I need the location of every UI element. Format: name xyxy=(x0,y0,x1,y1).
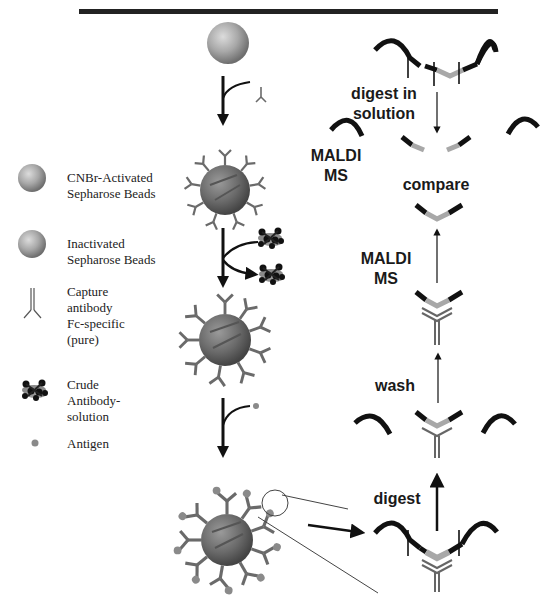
capture-antibody-reagent xyxy=(256,87,266,102)
activated-bead xyxy=(207,22,249,64)
flow-arrow-1 xyxy=(223,76,250,120)
crude-antibody-solution-icon xyxy=(22,380,48,402)
legend-label-inactivated-beads: Inactivated Sepharose Beads xyxy=(67,236,155,268)
flow-arrow-3 xyxy=(223,398,250,452)
label-compare: compare xyxy=(386,175,486,195)
label-maldi-ms-mid: MALDI MS xyxy=(356,249,416,289)
fragment-right xyxy=(508,119,538,134)
label-maldi-ms-top: MALDI MS xyxy=(306,146,366,186)
flow-arrow-2 xyxy=(223,228,258,282)
released-fragment-left xyxy=(355,416,390,434)
antibody-epitope-complex-wash xyxy=(416,412,462,458)
legend-label-antigen: Antigen xyxy=(67,436,109,452)
fragment-center-left xyxy=(402,137,424,150)
antigen-reagent xyxy=(253,403,259,409)
legend-label-capture-antibody: Capture antibody Fc-specific (pure) xyxy=(67,284,125,348)
zoom-callout xyxy=(258,490,378,593)
legend-label-crude-antibody-solution: Crude Antibody- solution xyxy=(67,377,120,425)
legend-label-cnbr-activated-beads: CNBr-Activated Sepharose Beads xyxy=(67,170,155,202)
epitope-fragment xyxy=(416,205,462,219)
fragment-center-right xyxy=(447,137,470,150)
label-digest-in-solution: digest in solution xyxy=(336,84,432,124)
antigen-icon xyxy=(32,440,39,447)
cnbr-activated-bead-icon xyxy=(18,164,46,192)
antibody-epitope-complex xyxy=(416,292,462,345)
released-fragment-right xyxy=(483,416,515,433)
label-digest: digest xyxy=(362,489,432,509)
antibody-bound-protein xyxy=(375,523,497,592)
protein-digest-top xyxy=(375,41,496,86)
bead-with-capture-antibodies xyxy=(185,150,266,230)
crude-antibody-in xyxy=(258,228,284,250)
label-wash: wash xyxy=(365,376,425,396)
bead-with-antigen-complex xyxy=(174,487,282,595)
capture-antibody-icon xyxy=(24,288,41,318)
crude-antibody-out xyxy=(259,264,285,286)
inactivated-bead-icon xyxy=(18,230,46,258)
bead-with-bound-antibodies xyxy=(180,295,271,387)
